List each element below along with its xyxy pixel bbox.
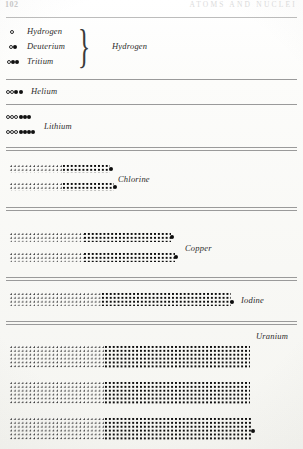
label-tritium: Tritium <box>27 56 53 66</box>
rule-after-copper-b <box>6 280 297 281</box>
nuclide-tritium <box>7 60 20 64</box>
proton-block-chlorine-37 <box>9 182 62 191</box>
neutron-dot <box>13 45 17 49</box>
neutron-dot <box>31 130 35 134</box>
proton-block-uranium-238 <box>9 417 104 441</box>
rule-after-iodine-a <box>6 321 297 322</box>
rule-after-lithium-b <box>6 150 297 151</box>
rule-after-hydrogen <box>6 79 297 80</box>
neutron-dot <box>19 115 23 119</box>
neutron-block-copper-65 <box>83 252 175 262</box>
proton-block-copper-65 <box>9 252 84 262</box>
neutron-block-uranium-234 <box>104 345 250 369</box>
label-copper: Copper <box>185 243 212 253</box>
running-head: 102 ATOMS AND NUCLEI <box>0 0 303 13</box>
rule-after-chlorine-a <box>6 207 297 208</box>
nuclide-lithium-7 <box>6 130 35 134</box>
nuclide-deuterium <box>9 45 17 49</box>
rule-top <box>6 17 297 18</box>
nuclide-helium <box>6 90 23 94</box>
label-hydrogen-group: Hydrogen <box>112 41 147 51</box>
proton-dot <box>14 115 18 119</box>
rule-after-iodine-b <box>6 324 297 325</box>
label-deuterium: Deuterium <box>27 41 65 51</box>
rule-after-chlorine-b <box>6 210 297 211</box>
neutron-dot <box>14 90 18 94</box>
neutron-dot <box>15 60 19 64</box>
brace-icon: } <box>78 24 90 70</box>
neutron-block-chlorine-35 <box>62 164 110 173</box>
nuclide-hydrogen <box>10 30 14 34</box>
nuclide-lithium-6 <box>6 115 31 119</box>
proton-block-copper-63 <box>9 232 84 242</box>
rule-after-lithium-a <box>6 147 297 148</box>
neutron-block-chlorine-37 <box>62 182 114 191</box>
proton-block-uranium-234 <box>9 345 104 369</box>
label-helium: Helium <box>31 86 57 96</box>
proton-dot <box>10 30 14 34</box>
neutron-dot <box>19 90 23 94</box>
proton-block-uranium-235 <box>9 381 104 405</box>
rule-after-copper-a <box>6 277 297 278</box>
label-chlorine: Chlorine <box>118 174 150 184</box>
page-number: 102 <box>5 0 19 9</box>
neutron-block-uranium-238 <box>104 417 252 441</box>
proton-block-iodine <box>9 292 102 306</box>
proton-block-chlorine-35 <box>9 164 62 173</box>
proton-dot <box>14 130 18 134</box>
label-iodine: Iodine <box>241 295 264 305</box>
neutron-block-iodine <box>101 292 231 306</box>
label-lithium: Lithium <box>44 121 72 131</box>
neutron-dot <box>19 130 23 134</box>
label-uranium: Uranium <box>256 331 288 341</box>
running-title: ATOMS AND NUCLEI <box>189 0 297 9</box>
rule-after-helium <box>6 104 297 105</box>
neutron-block-copper-63 <box>83 232 171 242</box>
neutron-dot <box>27 115 31 119</box>
label-hydrogen: Hydrogen <box>27 26 62 36</box>
neutron-block-uranium-235 <box>104 381 250 405</box>
